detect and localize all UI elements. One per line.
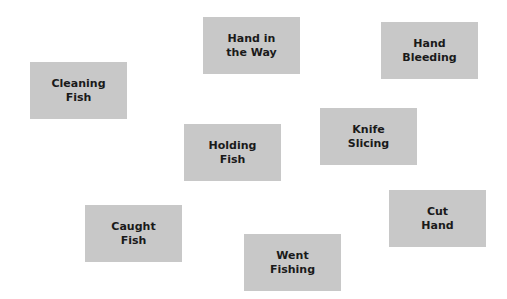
card-holding-fish: HoldingFish bbox=[184, 124, 281, 181]
card-label-line1: Cleaning bbox=[51, 77, 105, 91]
card-label-line1: Caught bbox=[111, 220, 155, 234]
card-label-line1: Cut bbox=[421, 205, 453, 219]
card-knife-slicing: KnifeSlicing bbox=[320, 108, 417, 165]
card-label-line2: Fish bbox=[51, 91, 105, 105]
card-cut-hand: CutHand bbox=[389, 190, 486, 247]
card-label-line2: Hand bbox=[421, 219, 453, 233]
card-label-line1: Knife bbox=[348, 123, 389, 137]
card-caught-fish: CaughtFish bbox=[85, 205, 182, 262]
card-label-line2: Slicing bbox=[348, 137, 389, 151]
card-hand-in-the-way: Hand inthe Way bbox=[203, 17, 300, 74]
card-label-line1: Went bbox=[270, 249, 315, 263]
card-cleaning-fish: CleaningFish bbox=[30, 62, 127, 119]
card-label-line1: Holding bbox=[209, 139, 257, 153]
card-went-fishing: WentFishing bbox=[244, 234, 341, 291]
card-label-line2: the Way bbox=[226, 46, 276, 60]
card-label-line2: Bleeding bbox=[402, 51, 456, 65]
card-label-line1: Hand bbox=[402, 37, 456, 51]
card-label-line2: Fish bbox=[209, 153, 257, 167]
card-label-line2: Fish bbox=[111, 234, 155, 248]
card-hand-bleeding: HandBleeding bbox=[381, 22, 478, 79]
card-label-line1: Hand in bbox=[226, 32, 276, 46]
card-label-line2: Fishing bbox=[270, 263, 315, 277]
